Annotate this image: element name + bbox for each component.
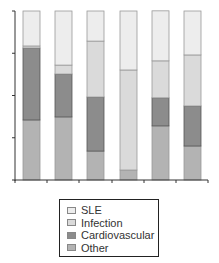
bar-segment-other [87,151,104,180]
bar-segment-sle [87,11,104,41]
legend-label-infection: Infection [81,217,123,229]
bar-segment-sle [120,11,137,70]
bar-segment-other [120,170,137,180]
bar-segment-infection [184,55,201,106]
legend-item-other: Other [67,242,158,255]
bar-segment-sle [152,11,169,61]
bar-segment-sle [23,11,40,46]
bar-segment-infection [87,41,104,97]
bar-segment-cardiovascular [152,98,169,126]
legend-swatch-infection [67,219,76,226]
legend-label-cardiovascular: Cardiovascular [81,229,154,241]
bar-segment-other [23,120,40,180]
legend-swatch-cardiovascular [67,232,76,239]
legend-item-cardiovascular: Cardiovascular [67,229,158,242]
bar-segment-infection [152,61,169,98]
bar-segment-sle [184,11,201,55]
bar-segment-infection [120,70,137,170]
bar-segment-other [184,146,201,180]
legend-item-infection: Infection [67,217,158,230]
bar-segment-cardiovascular [55,74,72,117]
bar-segment-cardiovascular [87,97,104,151]
bar-segment-cardiovascular [184,106,201,146]
bar-segment-other [55,117,72,180]
stacked-bar-chart [0,0,219,190]
bar-segment-other [152,126,169,180]
bar-segment-sle [55,11,72,65]
legend-swatch-other [67,244,76,251]
bar-segment-cardiovascular [23,48,40,120]
bar-segment-infection [55,65,72,74]
legend-label-other: Other [81,242,109,254]
chart-legend: SLE Infection Cardiovascular Other [59,199,159,257]
legend-item-sle: SLE [67,204,158,217]
legend-swatch-sle [67,207,76,214]
legend-label-sle: SLE [81,204,102,216]
